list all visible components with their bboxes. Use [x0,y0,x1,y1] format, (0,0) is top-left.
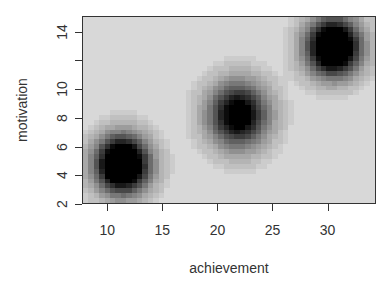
y-tick-label: 6 [54,143,70,151]
y-tick-label: 14 [54,24,70,40]
x-tick [272,204,273,211]
x-tick [107,204,108,211]
x-tick-label: 25 [265,222,281,238]
y-tick-label: 2 [54,200,70,208]
y-tick [75,89,82,90]
y-tick [75,32,82,33]
y-tick-label: 4 [54,171,70,179]
x-tick-label: 30 [320,222,336,238]
x-tick [217,204,218,211]
y-tick [75,118,82,119]
x-tick-label: 10 [100,222,116,238]
density-heatmap [83,17,375,203]
x-axis-label: achievement [189,260,268,276]
y-tick [75,175,82,176]
y-axis-label: motivation [14,78,30,142]
x-tick-label: 20 [210,222,226,238]
y-tick [75,204,82,205]
y-tick [75,147,82,148]
y-tick-label: 8 [54,114,70,122]
plot-area [82,16,376,204]
x-tick [162,204,163,211]
y-tick-label: 10 [54,81,70,97]
y-tick [75,60,82,61]
x-tick-label: 15 [155,222,171,238]
x-tick [328,204,329,211]
